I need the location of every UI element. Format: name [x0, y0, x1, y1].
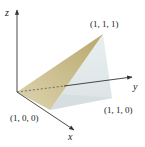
apex-label: (1, 1, 1)	[90, 19, 119, 29]
vertex-x-label: (1, 0, 0)	[10, 113, 39, 123]
diagram-canvas: z y x (1, 1, 1) (1, 0, 0) (1, 1, 0)	[0, 0, 145, 147]
z-axis-label: z	[4, 7, 9, 18]
y-axis-label: y	[132, 81, 138, 92]
x-axis-label: x	[67, 131, 73, 142]
tetrahedron-diagram: z y x (1, 1, 1) (1, 0, 0) (1, 1, 0)	[0, 0, 145, 147]
vertex-xy-label: (1, 1, 0)	[104, 105, 133, 115]
